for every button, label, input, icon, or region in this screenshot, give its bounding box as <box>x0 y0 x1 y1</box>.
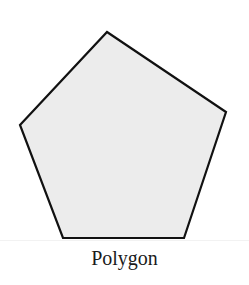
polygon-figure <box>0 0 249 245</box>
pentagon-shape <box>20 32 226 238</box>
divider-line <box>0 240 249 241</box>
figure-caption: Polygon <box>0 247 249 270</box>
